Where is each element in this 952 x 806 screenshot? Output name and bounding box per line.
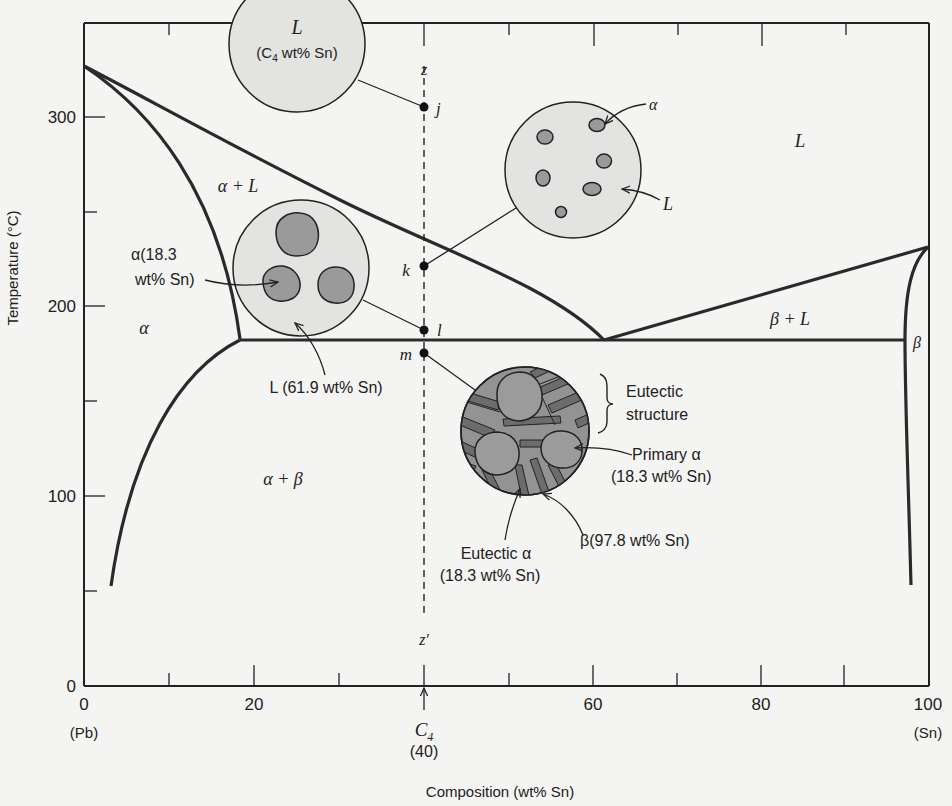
microstructure-m: Eutectic structure Primary α (18.3 wt% S… <box>424 353 711 584</box>
point-m-marker <box>420 349 429 358</box>
region-label-alpha-beta: α + β <box>263 469 303 489</box>
point-label-m: m <box>400 345 412 364</box>
x-axis-title: Composition (wt% Sn) <box>426 783 574 800</box>
region-label-beta: β <box>912 334 921 352</box>
y-tick-label: 100 <box>48 487 76 506</box>
point-k-marker <box>420 262 429 271</box>
y-axis-title: Temperature (°C) <box>4 210 21 325</box>
x-tick-label: 60 <box>584 695 603 714</box>
micro-m-primary-label-1: Primary α <box>632 446 701 463</box>
micro-m-eutectic-label-2: structure <box>626 406 688 423</box>
x-right-element-label: (Sn) <box>914 724 942 741</box>
beta-boundary-line <box>905 247 928 585</box>
x-tick-label: 0 <box>79 695 88 714</box>
microstructure-l: α(18.3 wt% Sn) L (61.9 wt% Sn) <box>131 200 424 396</box>
y-tick-label: 200 <box>48 297 76 316</box>
region-label-liquid: L <box>794 130 806 151</box>
c4-value: (40) <box>410 743 438 760</box>
x-left-element-label: (Pb) <box>70 724 98 741</box>
point-label-z-prime: z′ <box>418 631 429 648</box>
eutectic-brace <box>598 374 613 433</box>
x-tick-label: 100 <box>914 695 942 714</box>
micro-m-beta-label: β(97.8 wt% Sn) <box>580 532 690 549</box>
y-axis-ticks <box>84 117 105 591</box>
micro-m-eutectic-label-1: Eutectic <box>626 383 683 400</box>
micro-l-alpha-label-2: wt% Sn) <box>134 271 195 288</box>
microstructure-k: α L <box>424 96 673 266</box>
micro-l-alpha-label-1: α(18.3 <box>131 246 177 263</box>
point-label-l: l <box>437 321 442 340</box>
point-l-marker <box>420 326 429 335</box>
region-label-beta-liquid: β + L <box>769 309 810 329</box>
x-axis-ticks <box>169 665 844 686</box>
plot-frame <box>84 23 929 686</box>
point-label-z: z <box>420 61 428 78</box>
region-label-alpha-liquid: α + L <box>218 176 259 196</box>
y-tick-label: 0 <box>67 677 76 696</box>
micro-k-liquid-label: L <box>662 194 673 214</box>
liquidus-right-line <box>604 247 928 340</box>
micro-m-eut-alpha-label-2: (18.3 wt% Sn) <box>440 567 540 584</box>
point-j-marker <box>420 103 429 112</box>
micro-l-liquid-label: L (61.9 wt% Sn) <box>269 379 382 396</box>
micro-m-primary-label-2: (18.3 wt% Sn) <box>611 468 711 485</box>
c4-label: C4 <box>415 719 434 744</box>
micro-k-alpha-label: α <box>649 96 658 113</box>
micro-m-eut-alpha-label-1: Eutectic α <box>461 545 532 562</box>
x-tick-label: 80 <box>752 695 771 714</box>
y-tick-label: 300 <box>48 108 76 127</box>
solvus-alpha-line <box>111 340 240 586</box>
point-label-k: k <box>402 261 410 280</box>
region-label-alpha: α <box>139 318 149 338</box>
phase-diagram-figure: 300 200 100 0 Temperature (°C) 0 20 60 8… <box>0 0 952 806</box>
microstructure-j: L (C4 wt% Sn) <box>229 0 424 112</box>
x-tick-label: 20 <box>245 695 264 714</box>
micro-j-title: L <box>290 16 302 38</box>
point-label-j: j <box>434 99 441 118</box>
